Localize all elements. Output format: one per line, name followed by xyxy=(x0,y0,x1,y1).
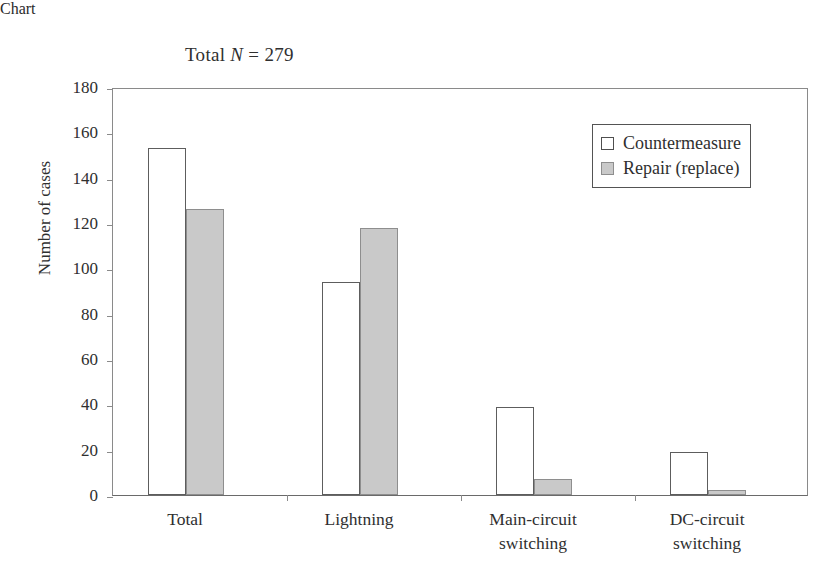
chart-title-prefix: Total xyxy=(185,44,230,65)
bar xyxy=(534,479,572,495)
legend: CountermeasureRepair (replace) xyxy=(592,124,751,188)
y-tick: 100 xyxy=(107,270,113,271)
x-axis-label-line: Total xyxy=(95,508,275,532)
legend-item-label: Repair (replace) xyxy=(623,158,739,179)
y-tick-label: 80 xyxy=(38,305,98,325)
bar xyxy=(670,452,708,495)
bar-chart-figure: Total N = 279 Number of cases 0204060801… xyxy=(0,18,833,563)
y-tick-label: 140 xyxy=(38,169,98,189)
y-tick: 0 xyxy=(107,497,113,498)
y-tick: 180 xyxy=(107,89,113,90)
bar xyxy=(360,228,398,495)
y-tick-label: 20 xyxy=(38,441,98,461)
x-axis-label-line: DC-circuit xyxy=(617,508,797,532)
y-tick: 20 xyxy=(107,452,113,453)
x-axis-label: Main-circuitswitching xyxy=(443,508,623,555)
chart-title-suffix: = 279 xyxy=(243,44,294,65)
y-tick: 160 xyxy=(107,134,113,135)
y-tick-label: 40 xyxy=(38,395,98,415)
bar xyxy=(708,490,746,495)
x-tick xyxy=(461,495,462,501)
x-axis-label-line: switching xyxy=(443,532,623,556)
y-tick: 60 xyxy=(107,361,113,362)
legend-item[interactable]: Repair (replace) xyxy=(601,156,741,181)
legend-item-label: Countermeasure xyxy=(623,133,741,154)
legend-item[interactable]: Countermeasure xyxy=(601,131,741,156)
x-tick xyxy=(635,495,636,501)
y-tick-label: 0 xyxy=(38,486,98,506)
y-tick-label: 160 xyxy=(38,123,98,143)
x-axis-label: Lightning xyxy=(269,508,449,532)
bar xyxy=(322,282,360,495)
x-axis-label-line: Main-circuit xyxy=(443,508,623,532)
chart-title: Total N = 279 xyxy=(185,44,294,66)
bar xyxy=(496,407,534,495)
chart-title-variable: N xyxy=(230,44,243,65)
y-tick-label: 120 xyxy=(38,214,98,234)
legend-swatch-filled-icon xyxy=(601,162,614,175)
y-tick: 140 xyxy=(107,180,113,181)
x-axis-label: Total xyxy=(95,508,275,532)
x-axis-label-line: switching xyxy=(617,532,797,556)
y-tick-label: 180 xyxy=(38,78,98,98)
bar xyxy=(186,209,224,495)
y-tick-label: 100 xyxy=(38,259,98,279)
y-tick: 120 xyxy=(107,225,113,226)
legend-swatch-open-icon xyxy=(601,137,614,150)
x-tick xyxy=(287,495,288,501)
y-tick: 40 xyxy=(107,406,113,407)
y-tick-label: 60 xyxy=(38,350,98,370)
x-axis-label: DC-circuitswitching xyxy=(617,508,797,555)
bar xyxy=(148,148,186,495)
x-axis-label-line: Lightning xyxy=(269,508,449,532)
y-tick: 80 xyxy=(107,316,113,317)
